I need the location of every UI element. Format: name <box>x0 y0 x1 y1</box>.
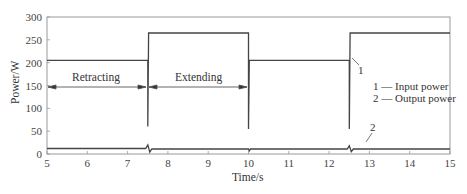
y-axis-ticks: 050100150200250300 <box>26 11 51 160</box>
x-tick-label: 9 <box>205 157 211 169</box>
retracting-label: Retracting <box>72 71 120 84</box>
x-tick-label: 11 <box>284 157 295 169</box>
y-tick-label: 250 <box>26 34 43 46</box>
callout-1: 1 <box>358 64 364 76</box>
y-tick-label: 300 <box>26 11 43 23</box>
x-tick-label: 5 <box>44 157 50 169</box>
power-chart: 56789101112131415 050100150200250300 Ret… <box>0 0 467 194</box>
y-tick-label: 200 <box>26 57 43 69</box>
y-tick-label: 150 <box>26 80 43 92</box>
x-tick-label: 8 <box>165 157 171 169</box>
y-tick-label: 50 <box>31 125 43 137</box>
x-tick-label: 10 <box>243 157 255 169</box>
y-tick-label: 100 <box>26 102 43 114</box>
x-tick-label: 15 <box>445 157 457 169</box>
legend-input-power: 1 — Input power <box>373 80 449 92</box>
x-axis-label: Time/s <box>232 171 264 183</box>
legend-output-power: 2 — Output power <box>373 92 456 104</box>
x-tick-label: 13 <box>364 157 376 169</box>
extending-label: Extending <box>175 71 223 84</box>
x-tick-label: 7 <box>125 157 131 169</box>
y-axis-label: Power/W <box>9 60 21 104</box>
callout-2: 2 <box>370 121 376 133</box>
x-tick-label: 6 <box>85 157 91 169</box>
callout-2-leader <box>366 133 372 142</box>
y-tick-label: 0 <box>37 148 43 160</box>
x-tick-label: 12 <box>324 157 335 169</box>
x-tick-label: 14 <box>404 157 416 169</box>
